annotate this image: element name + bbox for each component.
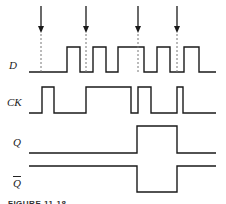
timing-diagram: D CK Q Q FIGURE 11-18 xyxy=(0,0,226,204)
clock-edge-arrow-icon xyxy=(135,6,141,73)
waveform-d xyxy=(29,47,216,72)
clock-edge-arrow-icon xyxy=(83,6,89,73)
waveform-qbar xyxy=(29,166,216,192)
figure-caption: FIGURE 11-18 xyxy=(8,199,66,204)
waveform-ck xyxy=(29,87,216,113)
label-q: Q xyxy=(13,136,21,148)
label-ck: CK xyxy=(7,96,22,108)
label-qbar: Q xyxy=(13,177,21,189)
label-d: D xyxy=(9,59,17,71)
clock-edge-arrow-icon xyxy=(38,6,44,73)
waveform-q xyxy=(29,126,216,153)
waveform-canvas xyxy=(0,0,226,204)
clock-edge-arrow-icon xyxy=(174,6,180,73)
